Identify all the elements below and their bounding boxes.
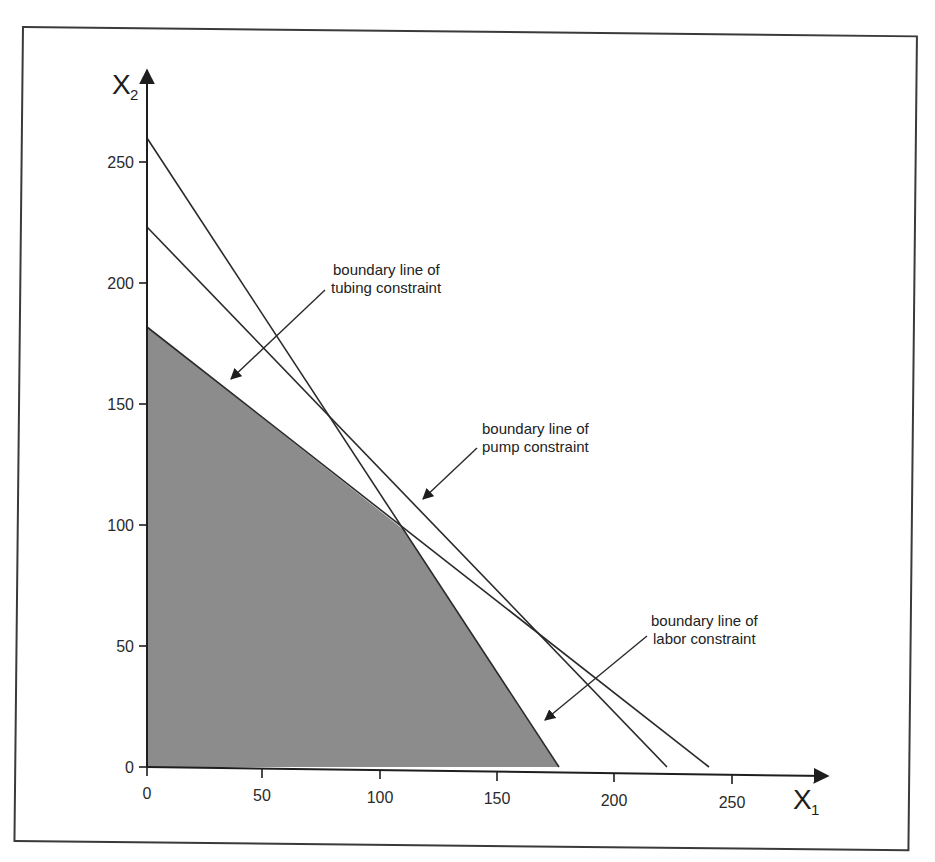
arrow-icon [423,448,477,499]
x-tick-50: 50 [253,787,271,804]
y-tick-50: 50 [116,638,134,655]
svg-text:pump constraint: pump constraint [482,438,590,455]
x-axis-title: X 1 [793,784,819,818]
y-ticks [139,162,147,767]
x-tick-0: 0 [143,785,152,802]
x-tick-100: 100 [367,789,394,806]
annotation-tubing: boundary line of tubing constraint [231,261,442,379]
x-ticks [147,767,732,784]
y-tick-labels: 0 50 100 150 200 250 [107,154,134,776]
svg-text:2: 2 [130,86,138,103]
annotation-labor: boundary line of labor constraint [545,612,759,720]
svg-text:labor constraint: labor constraint [653,630,756,647]
y-tick-0: 0 [125,759,134,776]
svg-text:boundary line of: boundary line of [651,612,759,629]
y-axis-title: X 2 [112,69,138,103]
x-tick-labels: 0 50 100 150 200 250 [143,785,746,811]
svg-text:X: X [112,69,131,100]
y-tick-150: 150 [107,396,134,413]
feasible-region [147,327,559,767]
svg-text:1: 1 [811,801,819,818]
y-tick-250: 250 [107,154,134,171]
svg-text:X: X [793,784,812,815]
svg-text:tubing constraint: tubing constraint [331,279,442,296]
x-tick-150: 150 [484,790,511,807]
x-axis [147,767,828,776]
y-tick-200: 200 [107,275,134,292]
y-tick-100: 100 [107,517,134,534]
arrow-icon [231,290,325,379]
svg-text:boundary line of: boundary line of [333,261,441,278]
x-tick-200: 200 [601,792,628,809]
annotation-pump: boundary line of pump constraint [423,420,590,499]
x-tick-250: 250 [719,794,746,811]
svg-text:boundary line of: boundary line of [482,420,590,437]
chart: 0 50 100 150 200 250 0 50 100 150 200 25… [0,0,935,862]
